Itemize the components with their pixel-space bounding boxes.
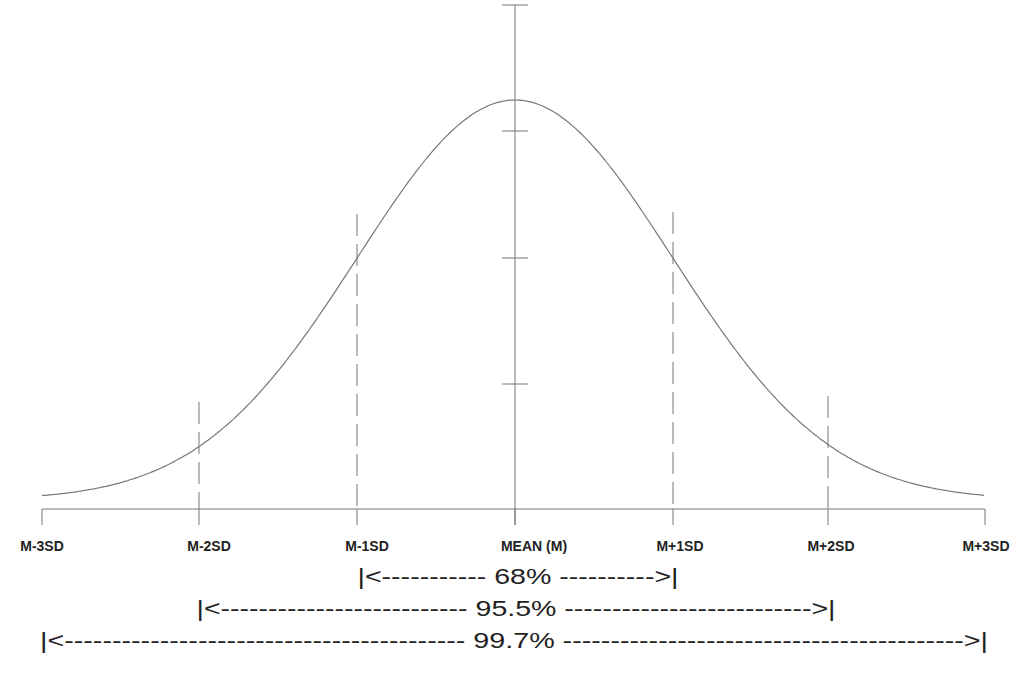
range-68: |<----------- 68% ---------->| [357, 564, 678, 590]
normal-curve [42, 100, 984, 496]
x-axis-ticks [42, 509, 985, 525]
sd-dashed-lines [199, 212, 828, 509]
x-label-m2sd: M-2SD [187, 538, 231, 554]
x-label-p1sd: M+1SD [656, 538, 703, 554]
range-99-7: |<--------------------------------------… [40, 628, 988, 654]
x-label-m1sd: M-1SD [345, 538, 389, 554]
x-label-p2sd: M+2SD [807, 538, 854, 554]
x-label-m3sd: M-3SD [20, 538, 64, 554]
range-95-5: |<-------------------------- 95.5% -----… [196, 596, 835, 622]
x-label-mean: MEAN (M) [501, 538, 567, 554]
x-label-p3sd: M+3SD [962, 538, 1009, 554]
